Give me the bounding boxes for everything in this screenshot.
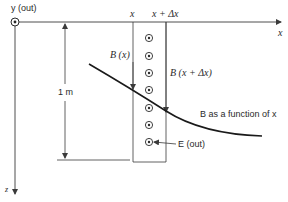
e-out-label: E (out) xyxy=(178,140,205,149)
y-axis-label-text: y (out) xyxy=(11,4,37,13)
e-field-dots xyxy=(145,34,152,145)
b-x-label: B (x) xyxy=(110,50,130,60)
x-axis-label: x xyxy=(278,28,282,38)
e-out-dot-icon xyxy=(145,121,152,128)
e-out-dot-icon xyxy=(145,69,152,76)
e-out-dot-icon xyxy=(145,34,152,41)
e-out-dot-icon xyxy=(145,52,152,59)
b-x-dx-label: B (x + Δx) xyxy=(170,68,212,78)
z-axis-label: z xyxy=(5,186,8,194)
e-out-dot-icon xyxy=(145,86,152,93)
dimension-label: 1 m xyxy=(58,88,73,97)
y-out-origin-icon xyxy=(11,18,19,26)
diagram-canvas xyxy=(0,0,288,202)
e-out-dot-icon xyxy=(145,104,152,111)
e-out-dot-icon xyxy=(145,138,152,145)
e-out-pointer xyxy=(154,142,176,144)
faraday-strip-diagram: y (out) x x + Δx x z 1 m B (x) B (x + Δx… xyxy=(0,0,288,202)
top-label-x: x xyxy=(130,9,134,19)
top-label-x-plus-dx: x + Δx xyxy=(152,9,179,19)
b-function-label: B as a function of x xyxy=(200,110,277,119)
